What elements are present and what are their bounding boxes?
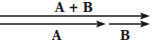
vector-b-label: B [120,30,130,42]
vector-a-label: A [52,30,61,42]
sum-label: A + B [55,2,93,14]
